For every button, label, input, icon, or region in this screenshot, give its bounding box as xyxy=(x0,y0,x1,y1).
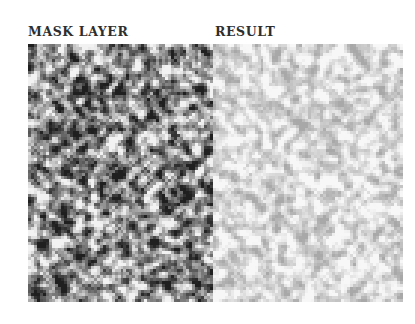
mask-layer-heading: MASK LAYER xyxy=(28,24,128,39)
result-noise-canvas xyxy=(213,44,403,302)
mask-layer-noise-image xyxy=(28,44,213,302)
mask-noise-canvas xyxy=(28,44,213,302)
result-noise-image xyxy=(213,44,403,302)
result-heading: RESULT xyxy=(215,24,276,39)
